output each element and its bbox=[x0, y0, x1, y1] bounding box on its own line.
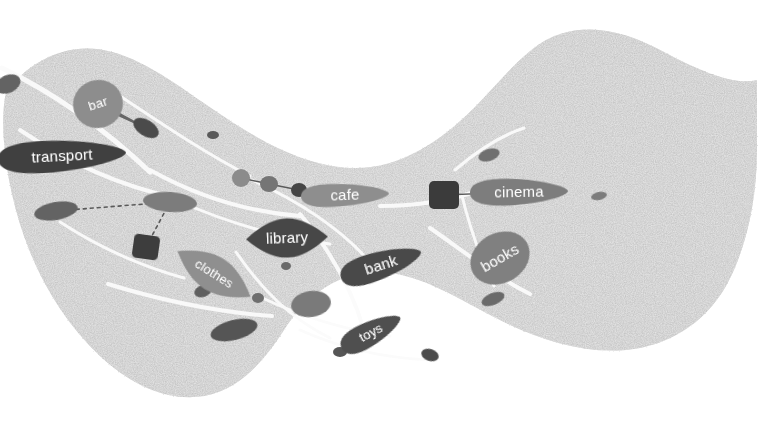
map-marker-u10 bbox=[429, 181, 459, 209]
node-label-cinema: cinema bbox=[494, 183, 544, 201]
node-shape bbox=[429, 181, 459, 209]
node-shape bbox=[281, 262, 291, 270]
node-shape bbox=[207, 131, 219, 139]
map-marker-u05 bbox=[260, 176, 278, 192]
map-marker-u13 bbox=[252, 293, 264, 303]
map-marker-u03 bbox=[207, 131, 219, 139]
map-marker-u12 bbox=[281, 262, 291, 270]
node-shape bbox=[131, 233, 160, 260]
map-marker-u09 bbox=[131, 233, 160, 260]
map-marker-u04 bbox=[232, 169, 250, 187]
node-label-library: library bbox=[266, 228, 309, 246]
node-label-cafe: cafe bbox=[330, 185, 360, 203]
node-shape bbox=[232, 169, 250, 187]
map-canvas: transportbarcafecinemalibrarybankbookscl… bbox=[0, 0, 760, 426]
node-shape bbox=[260, 176, 278, 192]
node-shape bbox=[252, 293, 264, 303]
landmass bbox=[3, 30, 757, 398]
node-label-transport: transport bbox=[31, 145, 93, 165]
map-svg: transportbarcafecinemalibrarybankbookscl… bbox=[0, 0, 760, 426]
